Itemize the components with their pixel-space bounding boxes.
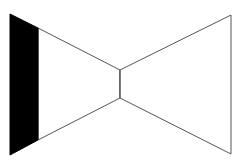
bowtie-diagram <box>0 0 245 162</box>
left-black-band <box>10 14 38 155</box>
